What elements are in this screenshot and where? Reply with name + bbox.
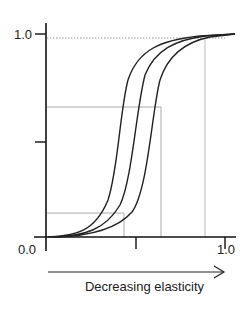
x-tick-label-right: 1.0 <box>217 243 235 256</box>
elasticity-diagram <box>0 0 251 311</box>
y-tick-label-top: 1.0 <box>14 28 32 41</box>
curve-2 <box>52 34 235 237</box>
curve-3 <box>56 34 235 237</box>
origin-label: 0.0 <box>18 243 36 256</box>
x-axis-caption: Decreasing elasticity <box>0 279 251 294</box>
curve-1 <box>48 34 235 237</box>
